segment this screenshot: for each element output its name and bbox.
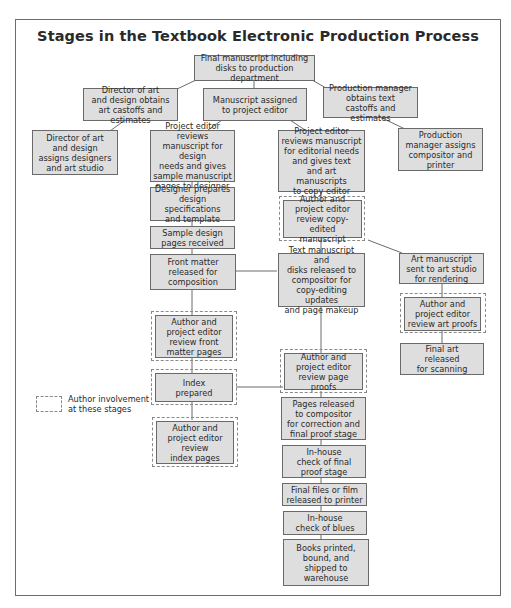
node-director-obtains: Director of art and design obtains art c…	[83, 88, 178, 121]
node-text-released: Text manuscript and disks released to co…	[278, 253, 365, 307]
node-books-printed: Books printed, bound, and shipped to war…	[283, 539, 369, 586]
node-author-index: Author and project editor review index p…	[156, 421, 234, 464]
node-director-assigns: Director of art and design assigns desig…	[32, 130, 118, 175]
legend-dashed-swatch	[36, 396, 62, 412]
node-pages-released: Pages released to compositor for correct…	[281, 397, 366, 440]
node-pe-design: Project editor reviews manuscript for de…	[150, 130, 235, 182]
node-author-front-matter: Author and project editor review front m…	[155, 315, 233, 358]
legend-label: Author involvement at these stages	[68, 394, 149, 414]
node-pm-obtains: Production manager obtains text castoffs…	[323, 87, 418, 118]
node-inhouse-final: In-house check of final proof stage	[282, 445, 366, 478]
node-designer-prepares: Designer prepares design specifications …	[150, 187, 235, 221]
node-final-files: Final files or film released to printer	[282, 483, 367, 506]
node-pe-editorial: Project editor reviews manuscript for ed…	[278, 130, 365, 192]
node-author-page-proofs: Author and project editor review page pr…	[284, 353, 363, 390]
node-manuscript-assigned: Manuscript assigned to project editor	[203, 88, 307, 121]
node-author-copyedited: Author and project editor review copy-ed…	[283, 200, 362, 238]
node-author-art-proofs: Author and project editor review art pro…	[404, 297, 481, 331]
node-pm-assigns: Production manager assigns compositor an…	[398, 128, 483, 171]
node-art-sent: Art manuscript sent to art studio for re…	[399, 253, 484, 284]
node-final-manuscript: Final manuscript including disks to prod…	[194, 55, 315, 81]
node-front-matter-released: Front matter released for composition	[150, 254, 236, 290]
node-final-art: Final art released for scanning	[400, 343, 484, 375]
node-index-prepared: Index prepared	[155, 373, 233, 402]
node-inhouse-blues: In-house check of blues	[283, 511, 367, 535]
node-sample-pages: Sample design pages received	[150, 226, 235, 249]
